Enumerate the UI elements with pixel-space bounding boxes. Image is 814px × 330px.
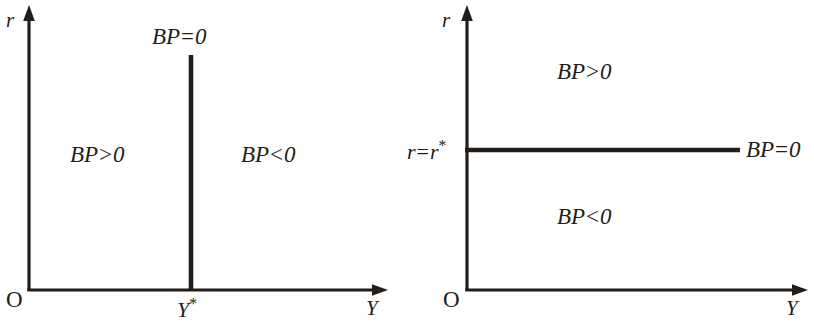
right-origin-label: O bbox=[443, 288, 460, 311]
right-x-axis-arrowhead bbox=[792, 284, 808, 296]
right-y-tick-superscript: * bbox=[439, 137, 447, 154]
right-region-deficit-value: 0 bbox=[600, 204, 612, 229]
left-region-bp-surplus-label: BP>0 bbox=[70, 143, 125, 166]
left-region-surplus-value: 0 bbox=[113, 142, 125, 167]
right-curve-label-value: 0 bbox=[789, 137, 801, 162]
right-curve-label-operator: = bbox=[774, 137, 789, 162]
right-x-axis-label: Y bbox=[786, 298, 798, 319]
left-region-deficit-operator: < bbox=[269, 142, 284, 167]
right-region-bp-surplus-label: BP>0 bbox=[557, 60, 612, 83]
left-region-bp-deficit-label: BP<0 bbox=[241, 143, 296, 166]
right-region-surplus-value: 0 bbox=[600, 59, 612, 84]
right-region-deficit-operator: < bbox=[585, 204, 600, 229]
left-x-axis-label: Y bbox=[366, 298, 378, 319]
left-y-axis-arrowhead bbox=[23, 5, 35, 21]
left-region-deficit-base: BP bbox=[241, 142, 269, 167]
right-curve-label-base: BP bbox=[746, 137, 774, 162]
left-y-axis-label: r bbox=[6, 10, 14, 31]
right-y-tick-value: r bbox=[430, 139, 439, 164]
panel-horizontal-bp-curve: r O Y r=r* BP=0 BP>0 BP<0 bbox=[407, 0, 814, 330]
right-y-axis-label: r bbox=[442, 10, 450, 31]
right-panel-axes-svg bbox=[407, 0, 814, 330]
right-region-surplus-base: BP bbox=[557, 59, 585, 84]
bp-curve-figure: r O Y Y* BP=0 BP>0 BP<0 r O Y r=r* BP=0 … bbox=[0, 0, 814, 330]
left-origin-label: O bbox=[6, 288, 23, 311]
left-curve-label-operator: = bbox=[180, 24, 195, 49]
right-bp-zero-curve-label: BP=0 bbox=[746, 138, 801, 161]
right-y-tick-base: r bbox=[407, 139, 416, 164]
left-x-tick-superscript: * bbox=[189, 295, 197, 312]
left-region-deficit-value: 0 bbox=[284, 142, 296, 167]
right-region-bp-deficit-label: BP<0 bbox=[557, 205, 612, 228]
left-panel-axes-svg bbox=[0, 0, 407, 330]
left-curve-label-base: BP bbox=[152, 24, 180, 49]
left-curve-label-value: 0 bbox=[195, 24, 207, 49]
right-y-tick-operator: = bbox=[416, 139, 430, 164]
left-x-tick-label-y-star: Y* bbox=[177, 296, 197, 321]
right-y-axis-arrowhead bbox=[461, 5, 473, 21]
right-region-surplus-operator: > bbox=[585, 59, 600, 84]
right-y-tick-label-r-star: r=r* bbox=[407, 138, 446, 163]
left-region-surplus-operator: > bbox=[98, 142, 113, 167]
left-bp-zero-curve-label: BP=0 bbox=[152, 25, 207, 48]
left-x-axis-arrowhead bbox=[372, 284, 388, 296]
right-region-deficit-base: BP bbox=[557, 204, 585, 229]
left-region-surplus-base: BP bbox=[70, 142, 98, 167]
left-x-tick-base: Y bbox=[177, 297, 189, 322]
panel-vertical-bp-curve: r O Y Y* BP=0 BP>0 BP<0 bbox=[0, 0, 407, 330]
